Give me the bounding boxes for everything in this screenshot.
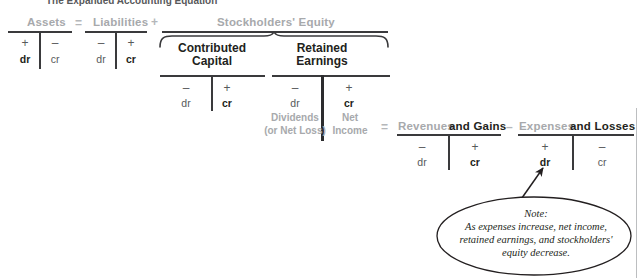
liabilities-debit-sign: –: [90, 37, 112, 49]
net-income-label-line1: Net: [324, 112, 376, 124]
liabilities-debit-label: dr: [90, 54, 112, 65]
assets-label: Assets: [27, 16, 66, 28]
assets-credit-sign: –: [44, 37, 66, 49]
accounting-equation-diagram: The Expanded Accounting Equation Assets …: [0, 0, 638, 278]
diagram-title: The Expanded Accounting Equation: [46, 0, 306, 6]
assets-divider: [39, 31, 41, 69]
contributed-capital-divider: [211, 75, 213, 111]
contributed-capital-label-line2: Capital: [162, 55, 262, 68]
expenses-divider: [572, 134, 574, 170]
expenses-label: Expenses: [519, 120, 574, 132]
expenses-and-losses-label: and Losses: [570, 120, 635, 132]
liabilities-divider: [115, 31, 117, 69]
revenues-credit-label: cr: [464, 157, 486, 168]
page-edge-line: [636, 108, 637, 278]
assets-credit-label: cr: [44, 54, 66, 65]
net-income-label-line2: Income: [324, 125, 376, 137]
stockholders-equity-label: Stockholders' Equity: [217, 16, 335, 28]
assets-debit-label: dr: [14, 54, 36, 65]
revenues-and-gains-label: and Gains: [449, 120, 506, 132]
operator-plus-1: +: [151, 16, 158, 28]
expenses-debit-sign: +: [534, 141, 556, 153]
note-callout: Note: As expenses increase, net income, …: [434, 186, 638, 278]
operator-equals-2: =: [381, 121, 388, 133]
contributed-capital-debit-sign: –: [175, 82, 197, 94]
expenses-credit-label: cr: [591, 157, 613, 168]
dividends-label-line1: Dividends: [265, 112, 325, 124]
liabilities-credit-label: cr: [120, 54, 142, 65]
revenues-credit-sign: +: [464, 141, 486, 153]
expenses-credit-sign: –: [591, 141, 613, 153]
contributed-capital-credit-label: cr: [216, 98, 238, 109]
revenues-divider: [448, 134, 450, 170]
liabilities-credit-sign: +: [120, 37, 142, 49]
contributed-capital-debit-label: dr: [175, 98, 197, 109]
liabilities-label: Liabilities: [93, 16, 148, 28]
retained-earnings-debit-label: dr: [284, 98, 306, 109]
retained-earnings-rule: [272, 75, 390, 77]
retained-earnings-credit-label: cr: [338, 98, 360, 109]
note-line-2: retained earnings, and stockholders': [438, 234, 634, 247]
revenues-label: Revenues: [398, 120, 454, 132]
revenues-debit-label: dr: [411, 157, 433, 168]
expenses-rule: [518, 134, 634, 136]
assets-debit-sign: +: [14, 37, 36, 49]
note-line-1: As expenses increase, net income,: [438, 221, 634, 234]
note-line-3: equity decrease.: [438, 247, 634, 260]
operator-equals-1: =: [75, 17, 82, 29]
note-heading: Note:: [438, 208, 634, 221]
operator-minus-1: –: [506, 121, 513, 133]
revenues-debit-sign: –: [411, 141, 433, 153]
contributed-capital-credit-sign: +: [216, 82, 238, 94]
retained-earnings-credit-sign: +: [338, 82, 360, 94]
retained-earnings-debit-sign: –: [284, 82, 306, 94]
dividends-label-line2: (or Net Loss): [261, 125, 329, 137]
retained-earnings-label-line2: Earnings: [272, 55, 372, 68]
